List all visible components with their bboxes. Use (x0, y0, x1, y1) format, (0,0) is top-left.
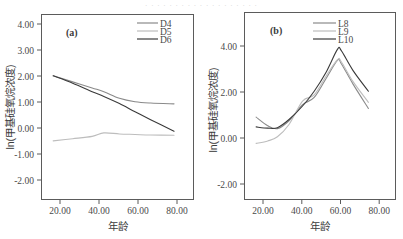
x-tick-label: 40.00 (291, 206, 313, 216)
panel-a-series-group (53, 76, 174, 141)
x-tick-label: 20.00 (49, 206, 71, 216)
x-tick-label: 20.00 (252, 206, 274, 216)
figure-container: · · · · · · · · · · · · · · · · · · · 4.… (0, 0, 403, 239)
panel-b-y-axis: 4.00 2.00 0.00 -2.00 (217, 42, 244, 190)
chart-panel-b: 4.00 2.00 0.00 -2.00 20.00 40.00 60.00 8… (200, 0, 403, 239)
series-line-l9 (256, 58, 368, 143)
series-line-d4 (53, 76, 174, 104)
panel-a-x-axis-title: 年龄 (108, 220, 129, 232)
y-tick-label: -2.00 (217, 180, 237, 190)
y-tick-label: -1.00 (14, 150, 34, 160)
x-tick-label: 60.00 (330, 206, 352, 216)
x-tick-label: 80.00 (369, 206, 391, 216)
legend-label-l10: L10 (338, 35, 354, 45)
panel-a-x-axis: 20.00 40.00 60.00 80.00 (49, 200, 188, 217)
panel-b-svg: 4.00 2.00 0.00 -2.00 20.00 40.00 60.00 8… (200, 0, 403, 239)
x-tick-label: 80.00 (166, 206, 188, 216)
y-tick-label: -2.00 (14, 176, 34, 186)
y-tick-label: 0.00 (220, 134, 237, 144)
legend-label-d6: D6 (160, 35, 172, 45)
panel-a-legend: D4 D5 D6 (137, 19, 172, 45)
panel-a-svg: 4.00 3.00 2.00 1.00 0.00 -1.00 -2.00 20.… (0, 0, 200, 239)
panel-b-series-group (256, 47, 368, 143)
series-line-l10 (256, 47, 368, 128)
panel-b-y-axis-title: ln(甲基硅氧烷浓度) (207, 67, 219, 152)
y-tick-label: 4.00 (220, 42, 237, 52)
y-tick-label: 1.00 (17, 98, 34, 108)
series-line-d5 (53, 133, 174, 141)
y-tick-label: 0.00 (17, 124, 34, 134)
chart-panel-a: 4.00 3.00 2.00 1.00 0.00 -1.00 -2.00 20.… (0, 0, 200, 239)
panel-a-y-axis: 4.00 3.00 2.00 1.00 0.00 -1.00 -2.00 (14, 20, 41, 186)
panel-b-x-axis-title: 年龄 (310, 220, 331, 232)
panel-a-label: (a) (66, 27, 78, 39)
y-tick-label: 3.00 (17, 46, 34, 56)
panel-a-y-axis-title: ln(甲基硅氧烷浓度) (4, 64, 16, 149)
panel-b-plot-frame (245, 13, 396, 200)
x-tick-label: 40.00 (88, 206, 110, 216)
y-tick-label: 2.00 (220, 88, 237, 98)
panel-b-legend: L8 L9 L10 (313, 19, 354, 45)
y-tick-label: 2.00 (17, 72, 34, 82)
panel-b-x-axis: 20.00 40.00 60.00 80.00 (252, 200, 390, 217)
panel-b-label: (b) (270, 25, 282, 37)
y-tick-label: 4.00 (17, 20, 34, 30)
x-tick-label: 60.00 (127, 206, 149, 216)
